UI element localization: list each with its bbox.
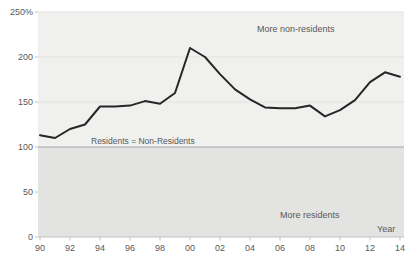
x-tick-label-08: 08 [297, 244, 323, 253]
x-tick-label-94: 94 [87, 244, 113, 253]
annotation-more-residents: More residents [280, 211, 340, 220]
y-tick-label-50: 50 [0, 188, 33, 197]
x-tick-label-06: 06 [267, 244, 293, 253]
y-tick-label-250%: 250% [0, 8, 33, 17]
x-tick-label-14: 14 [387, 244, 413, 253]
plot-area [0, 0, 414, 261]
x-tick-label-98: 98 [147, 244, 173, 253]
zone-more-non-residents [38, 12, 404, 147]
y-tick-label-200: 200 [0, 53, 33, 62]
x-axis-title: Year [377, 225, 395, 234]
y-tick-label-150: 150 [0, 98, 33, 107]
annotation-more-non-residents: More non-residents [257, 25, 335, 34]
x-tick-label-02: 02 [207, 244, 233, 253]
annotation-residents-equal-non-residents: Residents = Non-Residents [91, 137, 195, 146]
x-tick-label-96: 96 [117, 244, 143, 253]
x-tick-label-90: 90 [27, 244, 53, 253]
y-tick-label-0: 0 [0, 233, 33, 242]
x-tick-label-00: 00 [177, 244, 203, 253]
x-tick-label-92: 92 [57, 244, 83, 253]
ratio-line-chart: 250%200150100500 90929496980002040608101… [0, 0, 414, 261]
x-tick-label-12: 12 [357, 244, 383, 253]
y-tick-label-100: 100 [0, 143, 33, 152]
x-tick-label-04: 04 [237, 244, 263, 253]
x-tick-label-10: 10 [327, 244, 353, 253]
zone-more-residents [38, 147, 404, 237]
